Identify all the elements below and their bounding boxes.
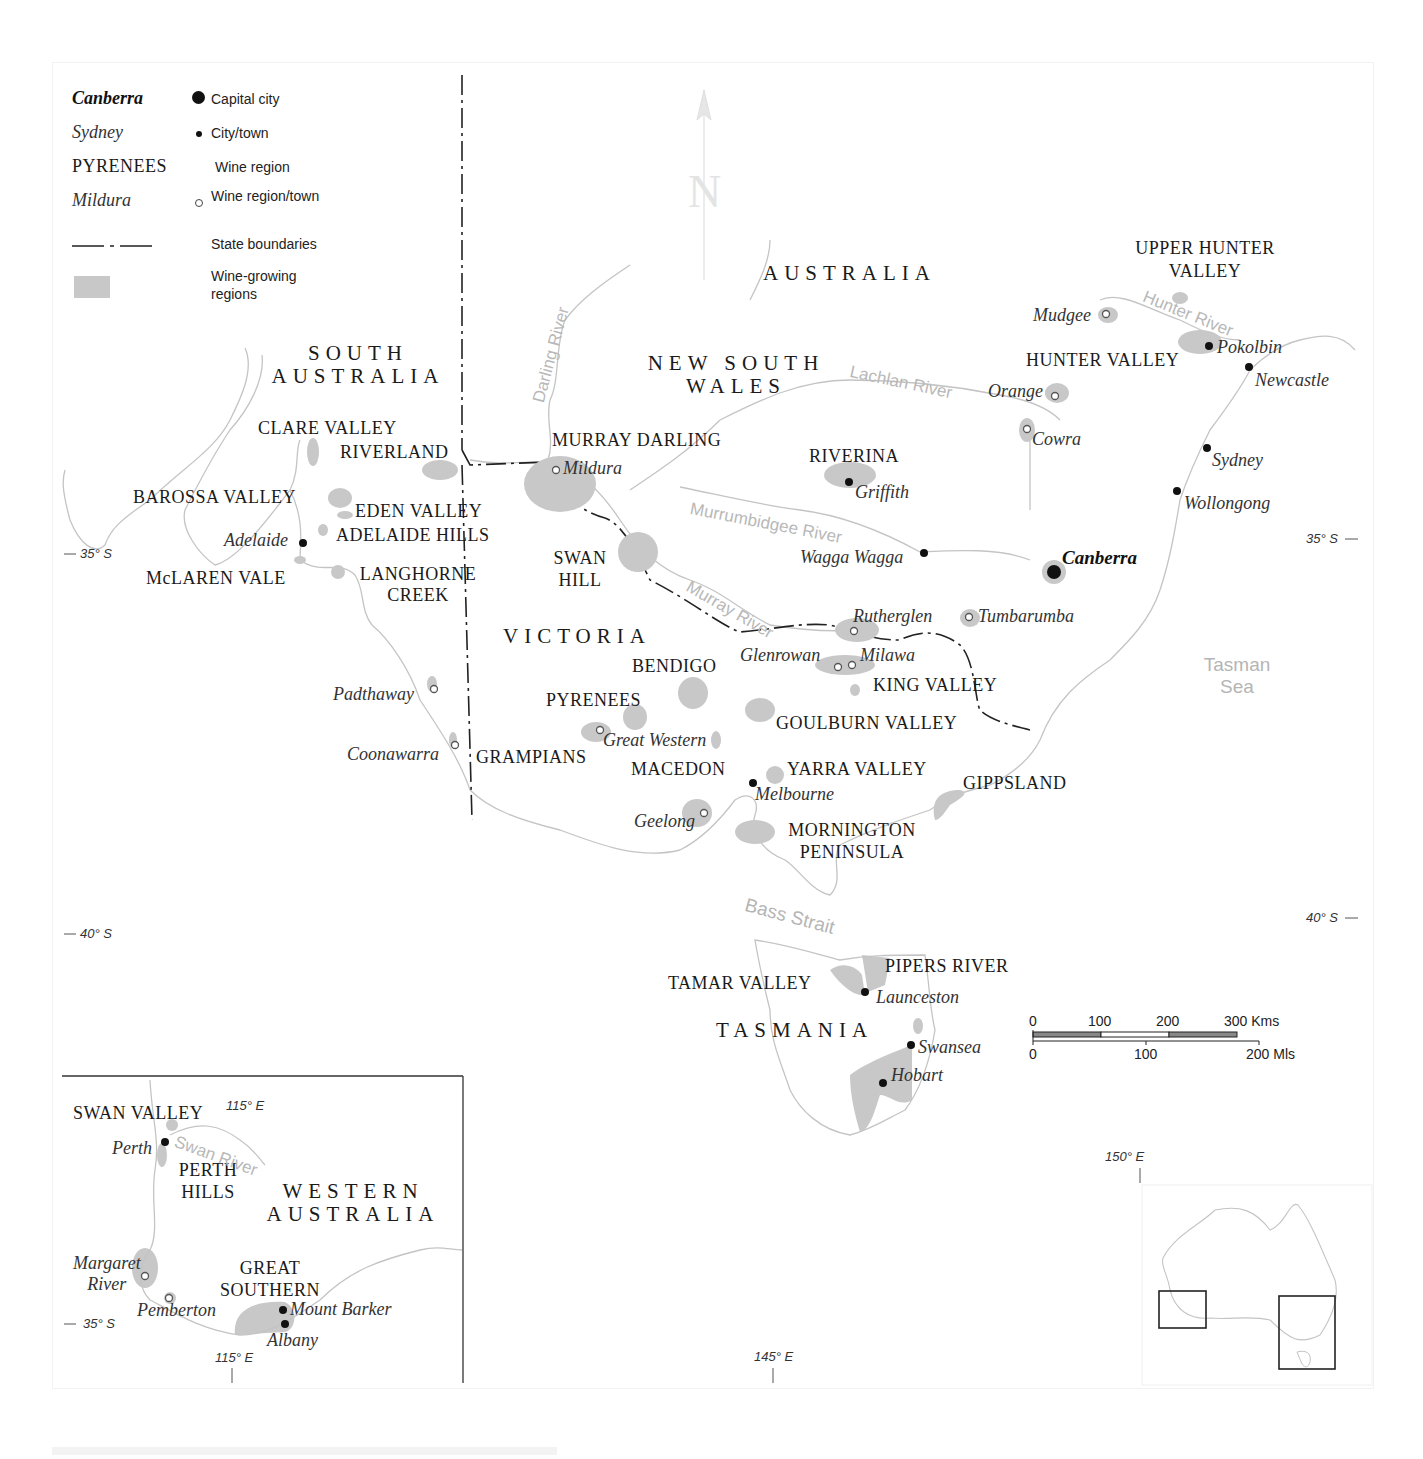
state-label-line: WESTERN xyxy=(260,1180,446,1203)
region-label-eden-valley: EDEN VALLEY xyxy=(355,502,482,520)
region-label-swan-hill: SWAN HILL xyxy=(545,548,615,591)
wine-town-markers xyxy=(142,311,1110,1302)
region-label-line: CREEK xyxy=(348,585,488,606)
region-label-king-valley: KING VALLEY xyxy=(873,676,997,694)
town-dot-icon xyxy=(196,131,202,137)
town-label-rutherglen: Rutherglen xyxy=(853,607,932,625)
region-label-line: GREAT xyxy=(206,1258,334,1280)
region-label-goulburn-valley: GOULBURN VALLEY xyxy=(776,714,957,732)
coord-label-wa-lat35: 35° S xyxy=(83,1317,115,1330)
region-label-riverland: RIVERLAND xyxy=(340,443,449,461)
region-label-line: MORNINGTON xyxy=(772,820,932,842)
town-label-great-western: Great Western xyxy=(603,731,706,749)
legend-desc-wine-growing: Wine-growing regions xyxy=(211,268,321,303)
region-label-grampians: GRAMPIANS xyxy=(476,748,587,766)
town-label-albany: Albany xyxy=(267,1331,318,1349)
region-label-pipers-river: PIPERS RIVER xyxy=(885,957,1009,975)
region-label-riverina: RIVERINA xyxy=(809,447,899,465)
town-label-line: Margaret xyxy=(73,1253,141,1274)
map-legend: Canberra Capital city Sydney City/town P… xyxy=(62,78,354,324)
town-label-pokolbin: Pokolbin xyxy=(1217,338,1282,356)
region-label-line: HILL xyxy=(545,570,615,592)
region-label-line: SOUTHERN xyxy=(206,1280,334,1302)
town-label-sydney: Sydney xyxy=(1212,451,1263,469)
town-label-newcastle: Newcastle xyxy=(1255,371,1329,389)
state-label-line: NEW SOUTH xyxy=(638,352,834,375)
town-label-mildura: Mildura xyxy=(563,459,622,477)
town-label-margaret-river: Margaret River xyxy=(73,1253,141,1294)
legend-row-state-boundary: State boundaries xyxy=(62,236,354,258)
state-label-tasmania: TASMANIA xyxy=(716,1020,873,1041)
town-label-perth: Perth xyxy=(112,1139,152,1157)
town-label-coonawarra: Coonawarra xyxy=(347,745,439,763)
state-label-australia: AUSTRALIA xyxy=(763,263,936,284)
region-label-mclaren-vale: McLAREN VALE xyxy=(146,569,286,587)
scale-mi-200: 200 Mls xyxy=(1246,1047,1295,1061)
coord-label-wa-lon115-bottom: 115° E xyxy=(215,1351,253,1364)
region-label-upper-hunter: UPPER HUNTER VALLEY xyxy=(1122,237,1288,282)
region-label-line: SWAN xyxy=(545,548,615,570)
town-label-padthaway: Padthaway xyxy=(333,685,414,703)
scale-km-200: 200 xyxy=(1156,1014,1179,1028)
town-label-canberra: Canberra xyxy=(1062,548,1137,567)
region-label-line: UPPER HUNTER xyxy=(1122,237,1288,260)
town-label-mudgee: Mudgee xyxy=(1033,306,1091,324)
region-label-line: LANGHORNE xyxy=(348,564,488,585)
capital-marker xyxy=(1047,565,1061,579)
town-label-wagga-wagga: Wagga Wagga xyxy=(800,548,903,566)
region-label-tamar-valley: TAMAR VALLEY xyxy=(668,974,811,992)
region-label-great-southern: GREAT SOUTHERN xyxy=(206,1258,334,1301)
legend-desc-region: Wine region xyxy=(215,159,290,177)
region-label-hunter-valley: HUNTER VALLEY xyxy=(1026,351,1179,369)
scale-mi-0: 0 xyxy=(1029,1047,1037,1061)
coord-label-lat35-left: 35° S xyxy=(80,547,112,560)
region-label-swan-valley: SWAN VALLEY xyxy=(73,1104,203,1122)
coord-label-lon150: 150° E xyxy=(1105,1150,1144,1163)
region-label-barossa-valley: BAROSSA VALLEY xyxy=(133,488,296,506)
region-label-yarra-valley: YARRA VALLEY xyxy=(787,760,927,778)
town-label-hobart: Hobart xyxy=(891,1066,943,1084)
sea-label-line: Sea xyxy=(1195,676,1279,698)
town-label-geelong: Geelong xyxy=(634,812,695,830)
legend-row-capital: Canberra Capital city xyxy=(62,88,354,110)
region-label-bendigo: BENDIGO xyxy=(632,657,717,675)
legend-sample-town: Sydney xyxy=(72,122,123,143)
scale-km-0: 0 xyxy=(1029,1014,1037,1028)
state-label-western-australia: WESTERN AUSTRALIA xyxy=(260,1180,446,1226)
town-label-wollongong: Wollongong xyxy=(1184,494,1270,512)
legend-sample-capital: Canberra xyxy=(72,88,143,109)
scale-mi-100: 100 xyxy=(1134,1047,1157,1061)
town-label-launceston: Launceston xyxy=(876,988,959,1006)
capital-dot-icon xyxy=(192,91,205,104)
town-label-orange: Orange xyxy=(988,382,1043,400)
grey-swatch-icon xyxy=(74,276,110,298)
region-label-gippsland: GIPPSLAND xyxy=(963,774,1067,792)
scale-km-300: 300 Kms xyxy=(1224,1014,1279,1028)
town-label-milawa: Milawa xyxy=(860,646,915,664)
legend-row-wine-region: PYRENEES Wine region xyxy=(62,156,354,178)
town-label-pemberton: Pemberton xyxy=(137,1301,216,1319)
region-label-clare-valley: CLARE VALLEY xyxy=(258,419,397,437)
legend-desc-town: City/town xyxy=(211,125,269,143)
state-label-south-australia: SOUTH AUSTRALIA xyxy=(268,342,448,388)
dash-dot-line-icon xyxy=(72,244,152,248)
state-label-line: WALES xyxy=(638,375,834,398)
region-label-pyrenees: PYRENEES xyxy=(546,691,641,709)
state-label-line: AUSTRALIA xyxy=(260,1203,446,1226)
region-label-line: PENINSULA xyxy=(772,842,932,864)
town-label-melbourne: Melbourne xyxy=(755,785,834,803)
legend-desc-capital: Capital city xyxy=(211,91,279,109)
state-label-line: AUSTRALIA xyxy=(268,365,448,388)
legend-sample-wine-town: Mildura xyxy=(72,190,131,211)
coord-label-lat40-left: 40° S xyxy=(80,927,112,940)
town-label-swansea: Swansea xyxy=(918,1038,981,1056)
region-label-langhorne-creek: LANGHORNE CREEK xyxy=(348,564,488,605)
town-label-mount-barker: Mount Barker xyxy=(290,1300,391,1318)
legend-row-wine-town: Mildura Wine region/town xyxy=(62,188,354,228)
region-label-adelaide-hills: ADELAIDE HILLS xyxy=(336,526,489,544)
region-label-line: HILLS xyxy=(170,1182,246,1204)
compass-north-label: N xyxy=(688,165,721,218)
region-label-murray-darling: MURRAY DARLING xyxy=(552,431,721,449)
coord-label-wa-lon115-top: 115° E xyxy=(226,1099,264,1112)
overview-inset xyxy=(1142,1185,1372,1385)
